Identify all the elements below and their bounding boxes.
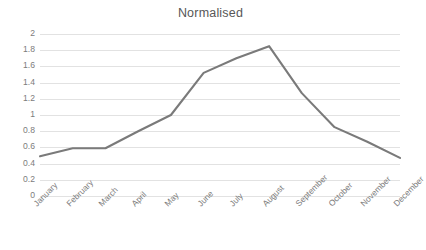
x-tick-label: January <box>32 181 59 208</box>
x-tick-label: July <box>228 191 244 207</box>
x-tick-label: March <box>97 186 119 208</box>
x-tick-label: October <box>327 181 354 208</box>
x-tick-label: September <box>294 173 329 208</box>
x-tick-label: May <box>163 191 180 208</box>
x-tick-label: December <box>392 175 425 208</box>
x-tick-label: April <box>130 190 148 208</box>
x-tick-label: June <box>196 189 215 208</box>
x-tick-label: November <box>359 175 392 208</box>
x-tick-label: August <box>261 184 285 208</box>
x-tick-label: February <box>65 178 95 208</box>
